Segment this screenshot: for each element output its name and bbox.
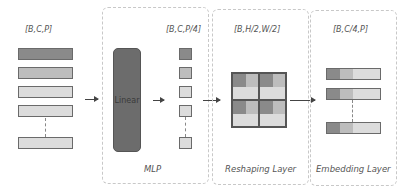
grid-quadrant: [232, 100, 259, 127]
input-row-4: [18, 105, 73, 117]
embedding-layer-title: Embedding Layer: [316, 164, 391, 174]
ellipsis-dots: [185, 117, 186, 137]
reshaping-output-shape-label: [B,H/2,W/2]: [234, 25, 280, 34]
input-shape-label: [B,C,P]: [25, 25, 52, 34]
grid-quadrant: [259, 73, 286, 100]
arrow-right-icon: [153, 100, 164, 101]
mlp-output-cell-3: [179, 86, 192, 98]
input-row-3: [18, 86, 73, 98]
mlp-output-shape-label: [B,C,P/4]: [166, 25, 201, 34]
input-row-n: [18, 137, 73, 149]
input-row-2: [18, 67, 73, 79]
embedding-row-1: [326, 68, 381, 80]
arrow-right-icon: [85, 99, 98, 100]
mlp-output-cell-n: [179, 137, 192, 149]
linear-label: Linear: [114, 96, 140, 105]
input-row-1: [18, 48, 73, 60]
mlp-output-cell-2: [179, 67, 192, 79]
ellipsis-dots: [45, 118, 46, 137]
linear-block: Linear: [113, 48, 141, 152]
grid-quadrant: [259, 100, 286, 127]
reshaped-feature-grid: [231, 72, 287, 128]
reshaping-layer-title: Reshaping Layer: [225, 164, 296, 174]
mlp-output-cell-1: [179, 48, 192, 60]
grid-quadrant: [232, 73, 259, 100]
embedding-output-shape-label: [B,C/4,P]: [333, 25, 368, 34]
mlp-title: MLP: [144, 164, 161, 174]
embedding-row-n: [326, 122, 381, 134]
ellipsis-dots: [352, 100, 353, 122]
embedding-row-2: [326, 88, 381, 100]
mlp-output-cell-4: [179, 105, 192, 117]
